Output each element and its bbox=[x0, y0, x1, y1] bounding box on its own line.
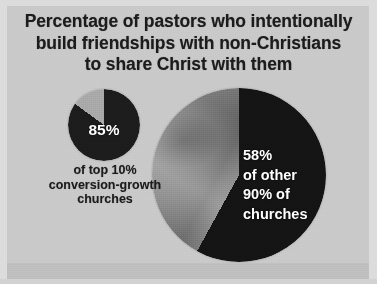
caption-line-2: conversion-growth bbox=[20, 178, 190, 193]
title-line-2: build friendships with non-Christians bbox=[0, 33, 377, 55]
pie-large-label: 58% of other 90% of churches bbox=[243, 146, 329, 224]
pie-large-label-line-3: 90% of bbox=[243, 185, 329, 205]
pie-small-caption: of top 10% conversion-growth churches bbox=[20, 163, 190, 207]
caption-line-1: of top 10% bbox=[20, 163, 190, 178]
title-line-3: to share Christ with them bbox=[0, 54, 377, 76]
pie-large-value-label: 58% bbox=[243, 146, 329, 166]
pie-large-label-line-2: of other bbox=[243, 166, 329, 186]
edge-strip-bottom bbox=[0, 279, 377, 284]
infographic-panel: Percentage of pastors who intentionally … bbox=[0, 0, 377, 284]
caption-line-3: churches bbox=[20, 192, 190, 207]
page-title: Percentage of pastors who intentionally … bbox=[0, 11, 377, 76]
pie-small-value-label: 85% bbox=[68, 121, 140, 139]
edge-strip-top bbox=[0, 0, 377, 6]
bottom-band bbox=[0, 263, 377, 279]
title-line-1: Percentage of pastors who intentionally bbox=[0, 11, 377, 33]
pie-large-label-line-4: churches bbox=[243, 205, 329, 225]
